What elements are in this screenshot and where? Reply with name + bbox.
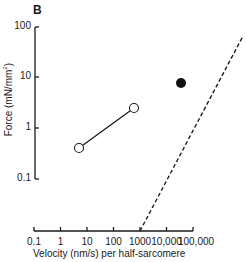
series-connector-line: [79, 108, 134, 148]
dashed-reference-line: [140, 36, 243, 231]
y-tick-label: 100: [3, 20, 31, 31]
open-circle-marker: [130, 104, 139, 113]
y-tick-label: 0.1: [3, 172, 31, 183]
open-circle-marker: [75, 144, 84, 153]
x-tick-label: 100,000: [168, 236, 224, 247]
filled-circle-marker: [176, 78, 186, 88]
force-velocity-chart: B 100 10 1 0.1 Force (mN/mm2) 0.1 1 10 1…: [0, 0, 247, 262]
panel-label: B: [33, 3, 42, 17]
y-axis-label: Force (mN/mm2): [2, 60, 13, 140]
x-axis-label: Velocity (nm/s) per half-sarcomere: [33, 248, 185, 259]
plot-area: [0, 0, 247, 262]
